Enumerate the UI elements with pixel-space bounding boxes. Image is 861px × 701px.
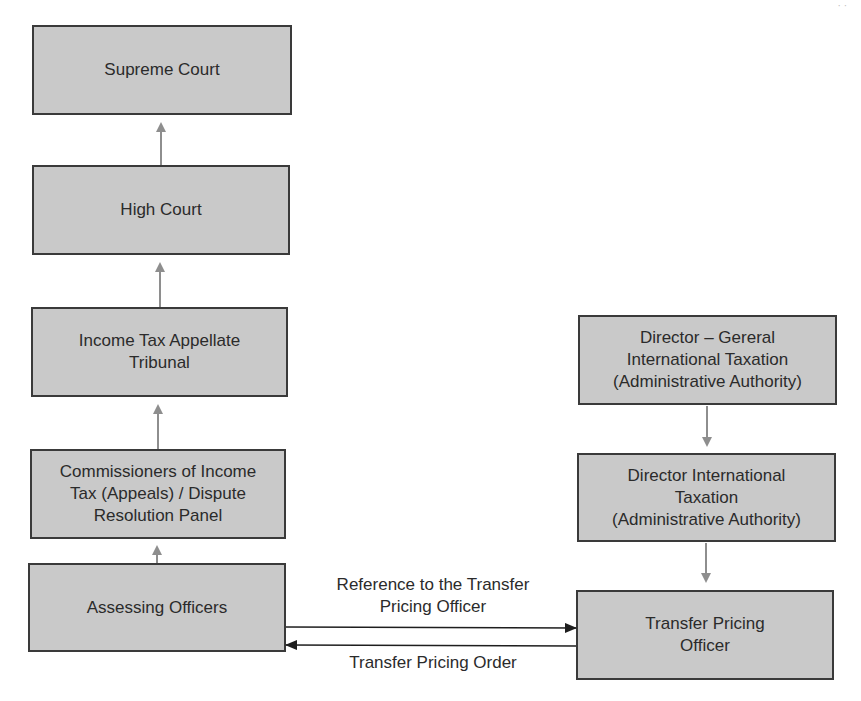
arrows-layer [0, 0, 861, 701]
arrow-reference-to-tpo [286, 627, 576, 628]
arrow-order-to-ao [286, 645, 576, 646]
